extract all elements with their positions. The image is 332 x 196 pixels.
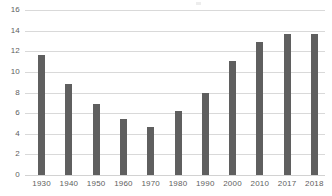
y-axis-tick-16: 16 <box>0 6 20 14</box>
y-axis-tick-2: 2 <box>0 150 20 158</box>
bar-1960 <box>120 119 127 175</box>
x-axis-tick-1930: 1930 <box>27 180 57 188</box>
bar-1980 <box>175 111 182 175</box>
x-axis-tick-1970: 1970 <box>136 180 166 188</box>
bar-2017 <box>284 34 291 175</box>
gridline-12 <box>25 51 325 52</box>
bar-2010 <box>256 42 263 175</box>
x-axis-tick-1940: 1940 <box>54 180 84 188</box>
gridline-16 <box>25 10 325 11</box>
y-axis-tick-4: 4 <box>0 130 20 138</box>
x-axis-tick-2000: 2000 <box>218 180 248 188</box>
bar-2018 <box>311 34 318 175</box>
bar-1970 <box>147 127 154 175</box>
x-axis-tick-2017: 2017 <box>272 180 302 188</box>
y-axis-tick-8: 8 <box>0 89 20 97</box>
bar-1950 <box>93 104 100 175</box>
image-artifact-speck <box>196 2 201 5</box>
gridline-10 <box>25 72 325 73</box>
x-axis-tick-1990: 1990 <box>190 180 220 188</box>
gridline-0 <box>25 175 325 176</box>
x-axis-tick-2010: 2010 <box>245 180 275 188</box>
x-axis-tick-2018: 2018 <box>299 180 329 188</box>
bar-1990 <box>202 93 209 176</box>
bar-2000 <box>229 61 236 175</box>
bar-chart: 0246810121416 19301940195019601970198019… <box>0 0 332 196</box>
y-axis-tick-6: 6 <box>0 109 20 117</box>
y-axis-tick-10: 10 <box>0 68 20 76</box>
bar-1940 <box>65 84 72 175</box>
y-axis-tick-0: 0 <box>0 171 20 179</box>
gridline-14 <box>25 31 325 32</box>
plot-area <box>25 10 325 175</box>
bar-1930 <box>38 55 45 175</box>
x-axis-tick-1960: 1960 <box>108 180 138 188</box>
y-axis-tick-12: 12 <box>0 47 20 55</box>
y-axis-tick-14: 14 <box>0 27 20 35</box>
x-axis-tick-1980: 1980 <box>163 180 193 188</box>
x-axis-tick-1950: 1950 <box>81 180 111 188</box>
